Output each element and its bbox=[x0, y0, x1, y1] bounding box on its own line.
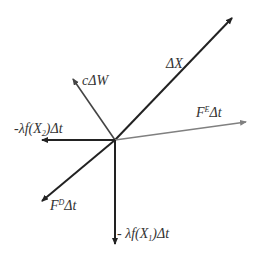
label-lambda-fx2: -λf(X2)Δt bbox=[14, 121, 64, 138]
vector-diagram: ΔX cΔW FEΔt -λf(X2)Δt FDΔt - λf(X1)Δt bbox=[0, 0, 260, 257]
vector-delta-x bbox=[115, 18, 232, 140]
vector-fd-delta-t bbox=[42, 140, 115, 201]
vector-c-delta-w bbox=[73, 79, 115, 140]
label-delta-x: ΔX bbox=[165, 56, 183, 71]
label-lambda-fx1: - λf(X1)Δt bbox=[117, 226, 170, 243]
label-fe-delta-t: FEΔt bbox=[195, 105, 223, 120]
label-fd-delta-t: FDΔt bbox=[49, 198, 78, 213]
label-c-delta-w: cΔW bbox=[82, 73, 109, 88]
vector-fe-delta-t bbox=[115, 122, 246, 140]
